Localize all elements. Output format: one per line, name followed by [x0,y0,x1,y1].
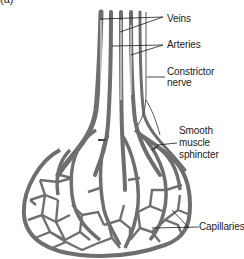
label-sphincter-3: sphincter [179,149,219,160]
label-veins: Veins [167,13,191,24]
label-sphincter-1: Smooth [179,125,213,136]
label-constrictor-nerve-2: nerve [167,77,192,88]
label-capillaries: Capillaries [199,221,244,232]
label-constrictor-nerve-1: Constrictor [167,66,214,77]
label-sphincter-2: muscle [179,137,210,148]
label-arteries: Arteries [167,39,201,50]
